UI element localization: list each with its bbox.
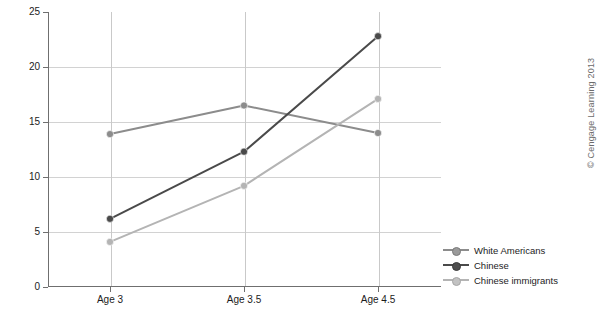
x-tick-mark-age-3 [110, 287, 111, 292]
y-tick-label-5: 5 [14, 227, 40, 237]
x-tick-label-age-3-5: Age 3.5 [199, 294, 289, 305]
line-chart-figure: Mean emotional knowledge scores 25 20 15… [0, 0, 614, 323]
y-tick-label-20: 20 [14, 62, 40, 72]
y-tick-label-0: 0 [14, 282, 40, 292]
legend-label-chinese: Chinese [474, 260, 509, 271]
y-tick-label-15: 15 [14, 117, 40, 127]
y-axis-title: Mean emotional knowledge scores [0, 0, 22, 323]
y-tick-mark-0 [43, 287, 48, 288]
legend-label-white-americans: White Americans [474, 245, 545, 256]
x-tick-mark-age-3-5 [244, 287, 245, 292]
category-gridline-age-4-5 [379, 12, 380, 286]
legend-item-chinese-immigrants[interactable]: Chinese immigrants [443, 273, 603, 287]
legend: White Americans Chinese Chinese immigran… [443, 243, 603, 288]
x-tick-label-age-3: Age 3 [65, 294, 155, 305]
legend-marker-white-americans-icon [443, 244, 469, 256]
x-tick-label-age-4-5: Age 4.5 [333, 294, 423, 305]
legend-marker-chinese-immigrants-icon [443, 274, 469, 286]
plot-area [48, 12, 441, 287]
legend-item-chinese[interactable]: Chinese [443, 258, 603, 272]
legend-item-white-americans[interactable]: White Americans [443, 243, 603, 257]
y-tick-label-10: 10 [14, 172, 40, 182]
category-gridline-age-3-5 [245, 12, 246, 286]
legend-marker-chinese-icon [443, 259, 469, 271]
category-gridline-age-3 [111, 12, 112, 286]
legend-label-chinese-immigrants: Chinese immigrants [474, 275, 558, 286]
copyright-credit: © Cengage Learning 2013 [586, 28, 596, 168]
x-tick-mark-age-4-5 [378, 287, 379, 292]
y-tick-label-25: 25 [14, 7, 40, 17]
